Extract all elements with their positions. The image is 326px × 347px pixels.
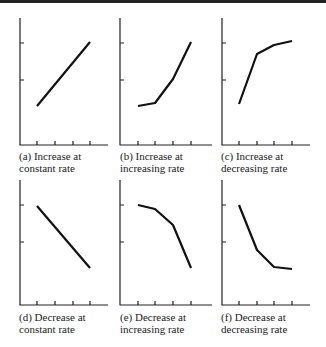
caption-e-line2: increasing rate <box>120 323 186 335</box>
panel-e-line <box>138 205 191 268</box>
panel-c-axes <box>222 18 310 145</box>
panel-b-axes <box>120 18 212 145</box>
panel-a-axes <box>20 18 108 145</box>
panel-f-axes <box>222 180 310 305</box>
caption-f-line1: (f) Decrease at <box>221 311 287 323</box>
caption-d-line1: (d) Decrease at <box>19 311 86 323</box>
caption-b-line2: increasing rate <box>120 162 184 174</box>
panel-d-axes <box>20 180 108 305</box>
caption-a-line2: constant rate <box>19 162 81 174</box>
caption-c-line1: (c) Increase at <box>221 150 287 162</box>
caption-e-line1: (e) Decrease at <box>120 311 186 323</box>
panel-b-line <box>138 42 191 106</box>
caption-c: (c) Increase at decreasing rate <box>221 150 287 174</box>
caption-e: (e) Decrease at increasing rate <box>120 311 186 335</box>
caption-c-line2: decreasing rate <box>221 162 287 174</box>
panel-f-line <box>239 205 292 269</box>
panel-d-line <box>37 206 90 268</box>
caption-b: (b) Increase at increasing rate <box>120 150 184 174</box>
caption-d-line2: constant rate <box>19 323 86 335</box>
caption-d: (d) Decrease at constant rate <box>19 311 86 335</box>
panel-c-line <box>239 41 292 104</box>
caption-f: (f) Decrease at decreasing rate <box>221 311 287 335</box>
panel-a-line <box>37 42 90 106</box>
caption-a: (a) Increase at constant rate <box>19 150 81 174</box>
caption-f-line2: decreasing rate <box>221 323 287 335</box>
panel-e-axes <box>120 180 212 305</box>
caption-a-line1: (a) Increase at <box>19 150 81 162</box>
caption-b-line1: (b) Increase at <box>120 150 184 162</box>
